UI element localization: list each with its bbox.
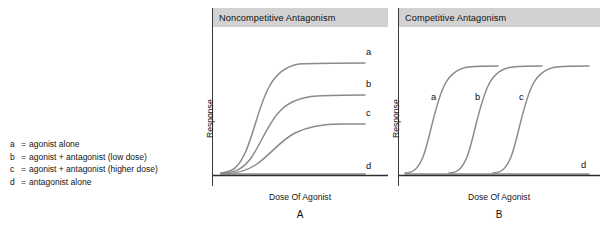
- curve-label-d: d: [581, 159, 586, 170]
- panel-b-plot-area: a b c d: [399, 27, 600, 186]
- legend-item-b: b=agonist + antagonist (low dose): [10, 151, 200, 164]
- legend-key-b: b: [10, 151, 18, 164]
- panel-b-x-axis-label: Dose Of Agonist: [398, 192, 600, 202]
- panel-b-y-axis-label: Response: [391, 99, 401, 138]
- panel-b-letter: B: [398, 209, 600, 220]
- legend-equals-c: =: [18, 163, 29, 176]
- curve-label-d: d: [366, 160, 371, 171]
- panel-a-x-axis-label: Dose Of Agonist: [212, 192, 388, 202]
- legend-text-b: agonist + antagonist (low dose): [29, 152, 147, 162]
- legend-equals-a: =: [18, 138, 29, 151]
- legend-item-d: d=antagonist alone: [10, 176, 200, 189]
- curve-label-c: c: [366, 107, 371, 118]
- figure-root: a=agonist alone b=agonist + antagonist (…: [0, 0, 608, 232]
- curve-label-b: b: [366, 78, 371, 89]
- legend-item-a: a=agonist alone: [10, 138, 200, 151]
- legend: a=agonist alone b=agonist + antagonist (…: [10, 138, 200, 188]
- legend-text-c: agonist + antagonist (higher dose): [29, 164, 158, 174]
- curve-a: [221, 63, 365, 173]
- chart-panel-a: Noncompetitive Antagonism a b c d: [212, 8, 388, 186]
- legend-text-a: agonist alone: [29, 139, 80, 149]
- legend-key-c: c: [10, 163, 18, 176]
- legend-key-d: d: [10, 176, 18, 189]
- legend-item-c: c=agonist + antagonist (higher dose): [10, 163, 200, 176]
- panel-b-title: Competitive Antagonism: [399, 8, 600, 27]
- legend-key-a: a: [10, 138, 18, 151]
- curve-label-a: a: [431, 91, 437, 102]
- curve-label-b: b: [475, 91, 480, 102]
- legend-equals-b: =: [18, 151, 29, 164]
- panel-a-svg: a b c d: [213, 27, 388, 186]
- curve-label-c: c: [519, 91, 524, 102]
- curve-a: [405, 66, 498, 173]
- curve-b: [449, 66, 542, 173]
- curve-c: [493, 66, 589, 173]
- legend-equals-d: =: [18, 176, 29, 189]
- chart-panel-b: Competitive Antagonism a b c d: [398, 8, 600, 186]
- panel-a-title: Noncompetitive Antagonism: [213, 8, 388, 27]
- panel-b-svg: a b c d: [399, 27, 600, 186]
- panel-a-plot-area: a b c d: [213, 27, 388, 186]
- legend-text-d: antagonist alone: [29, 177, 91, 187]
- curve-label-a: a: [366, 46, 372, 57]
- panel-a-letter: A: [212, 209, 388, 220]
- panel-a-y-axis-label: Response: [205, 99, 215, 138]
